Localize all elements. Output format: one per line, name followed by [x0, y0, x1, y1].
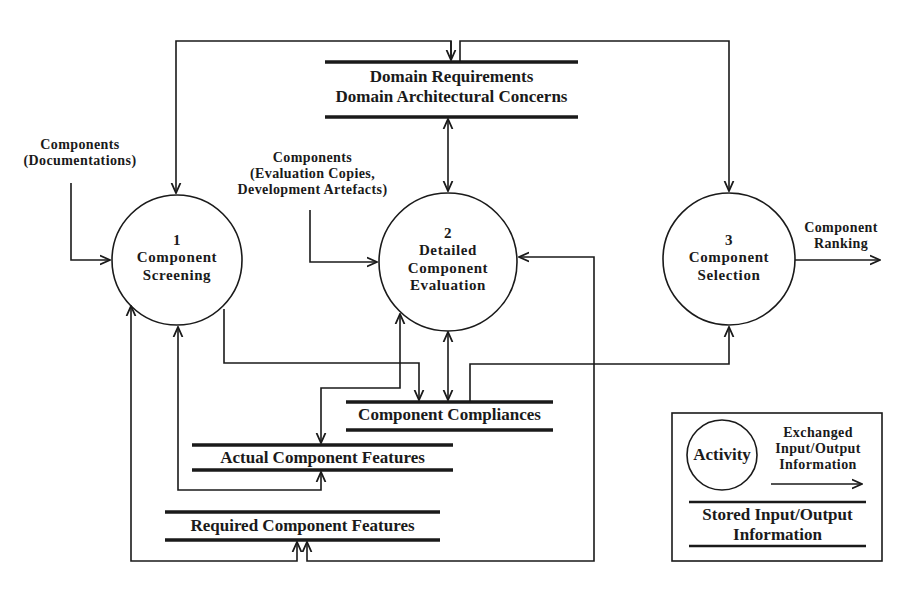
legend-stored-label: Stored Input/Output Information [680, 505, 875, 544]
process-3-line2: Selection [669, 267, 789, 284]
evaluation-line2: (Evaluation Copies, [225, 166, 400, 182]
process-3-label: 3 Component Selection [669, 232, 789, 284]
legend-exchanged-line3: Information [768, 457, 868, 473]
domain-store-label: Domain Requirements Domain Architectural… [325, 67, 578, 106]
legend-exchanged-label: Exchanged Input/Output Information [768, 425, 868, 473]
evaluation-line1: Components [225, 150, 400, 166]
evaluation-copies-label: Components (Evaluation Copies, Developme… [225, 150, 400, 198]
process-3-line1: Component [669, 249, 789, 266]
legend-stored-line1: Stored Input/Output [680, 505, 875, 525]
domain-store-line1: Domain Requirements [325, 67, 578, 87]
ranking-line1: Component [796, 220, 886, 236]
domain-store-line2: Domain Architectural Concerns [325, 87, 578, 107]
legend-exchanged-line2: Input/Output [768, 441, 868, 457]
ranking-label: Component Ranking [796, 220, 886, 252]
process-2-number: 2 [388, 225, 508, 242]
flow-evaluation-copies-in [310, 210, 377, 262]
legend-stored-line2: Information [680, 525, 875, 545]
process-1-label: 1 Component Screening [117, 232, 237, 284]
required-features-store-label: Required Component Features [165, 516, 440, 536]
process-2-line1: Detailed [388, 242, 508, 259]
process-2-label: 2 Detailed Component Evaluation [388, 225, 508, 294]
process-1-line1: Component [117, 249, 237, 266]
compliances-store-label: Component Compliances [346, 405, 553, 425]
process-1-number: 1 [117, 232, 237, 249]
process-2-line2: Component [388, 260, 508, 277]
flow-screening-to-compliances [224, 309, 419, 400]
process-1-line2: Screening [117, 267, 237, 284]
documentations-line2: (Documentations) [20, 153, 140, 169]
documentations-line1: Components [20, 137, 140, 153]
flow-compliances-to-selection [470, 327, 729, 402]
process-2-line3: Evaluation [388, 277, 508, 294]
process-3-number: 3 [669, 232, 789, 249]
actual-features-store-label: Actual Component Features [192, 448, 453, 468]
documentations-label: Components (Documentations) [20, 137, 140, 169]
evaluation-line3: Development Artefacts) [225, 182, 400, 198]
ranking-line2: Ranking [796, 236, 886, 252]
legend-exchanged-line1: Exchanged [768, 425, 868, 441]
legend-activity-label: Activity [687, 445, 757, 465]
flow-documentations-in [71, 183, 110, 260]
